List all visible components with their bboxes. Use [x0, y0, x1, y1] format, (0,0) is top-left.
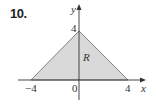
x-tick-4: 4 — [125, 82, 131, 94]
x-tick-neg4: −4 — [25, 82, 37, 94]
region-r — [31, 31, 128, 80]
x-tick-0: 0 — [72, 82, 78, 94]
y-axis-arrow-icon — [77, 4, 82, 10]
y-tick-4: 4 — [71, 22, 77, 34]
x-axis-label: x — [140, 82, 146, 94]
region-label: R — [82, 51, 90, 63]
region-diagram: y 4 R −4 0 4 x — [0, 0, 156, 109]
y-axis-label: y — [70, 3, 76, 15]
